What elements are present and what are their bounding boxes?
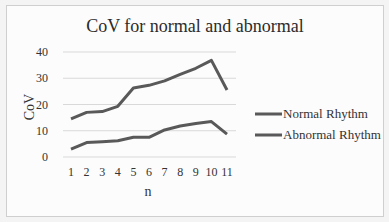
legend-label: Normal Rhythm bbox=[283, 106, 368, 121]
x-tick-label: 2 bbox=[84, 165, 90, 179]
x-tick-label: 5 bbox=[130, 165, 136, 179]
x-tick-label: 9 bbox=[193, 165, 199, 179]
x-tick-label: 3 bbox=[99, 165, 105, 179]
y-tick-label: 30 bbox=[36, 71, 48, 85]
x-tick-label: 4 bbox=[115, 165, 121, 179]
y-axis-label: CoV bbox=[22, 94, 37, 120]
x-tick-label: 10 bbox=[205, 165, 217, 179]
series-line bbox=[71, 60, 227, 119]
series-line bbox=[71, 122, 227, 150]
x-tick-label: 8 bbox=[177, 165, 183, 179]
legend-label: Abnormal Rhythm bbox=[283, 127, 381, 142]
line-chart: 0102030401234567891011nCoVNormal RhythmA… bbox=[0, 0, 389, 222]
x-tick-label: 7 bbox=[162, 165, 168, 179]
y-tick-label: 40 bbox=[36, 45, 48, 59]
y-tick-label: 0 bbox=[42, 150, 48, 164]
x-axis-label: n bbox=[145, 184, 152, 199]
y-tick-label: 20 bbox=[36, 98, 48, 112]
x-tick-label: 1 bbox=[68, 165, 74, 179]
y-tick-label: 10 bbox=[36, 124, 48, 138]
x-tick-label: 11 bbox=[221, 165, 233, 179]
x-tick-label: 6 bbox=[146, 165, 152, 179]
